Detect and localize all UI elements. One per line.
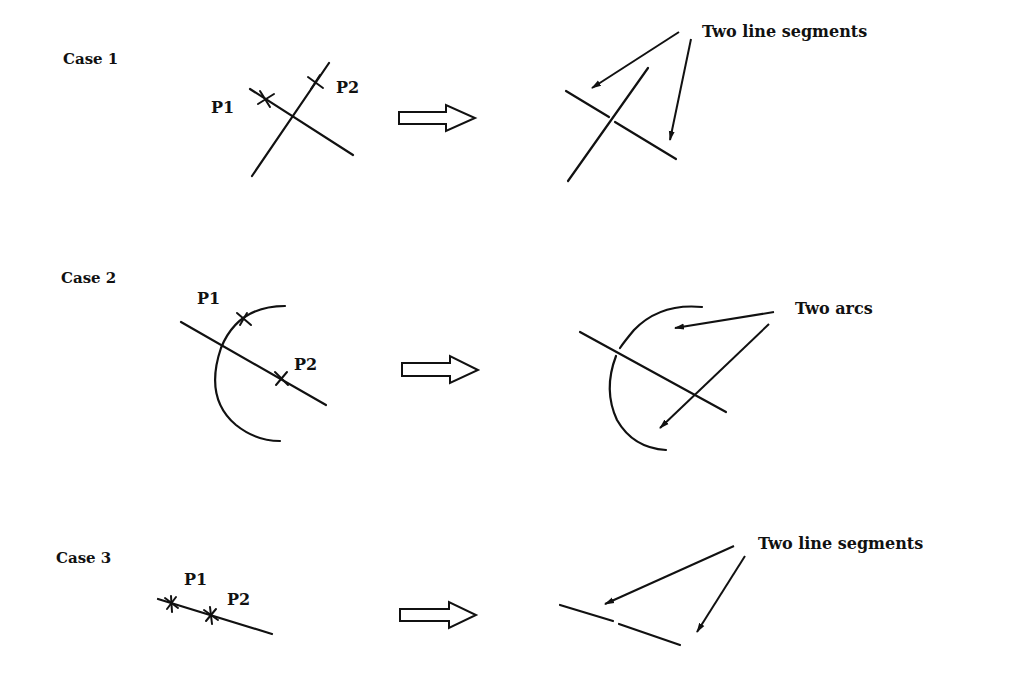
case-1-after: Two line segments bbox=[566, 22, 867, 181]
point-label-p2: P2 bbox=[294, 355, 317, 374]
annotation-two-line-segments: Two line segments bbox=[702, 22, 867, 41]
pick-mark-p1 bbox=[258, 91, 274, 107]
transform-arrow-icon bbox=[402, 356, 478, 383]
case-2-after: Two arcs bbox=[580, 299, 873, 450]
leader-arrow-2 bbox=[670, 39, 691, 140]
segment-a2 bbox=[615, 122, 676, 159]
line bbox=[580, 332, 726, 412]
point-label-p1: P1 bbox=[184, 570, 207, 589]
point-label-p1: P1 bbox=[211, 98, 234, 117]
point-label-p2: P2 bbox=[227, 590, 250, 609]
annotation-two-line-segments: Two line segments bbox=[758, 534, 923, 553]
segment-b bbox=[568, 68, 648, 181]
case-1-label: Case 1 bbox=[63, 50, 118, 68]
case-3-before: P1 P2 bbox=[158, 570, 272, 634]
leader-arrow-2 bbox=[660, 324, 769, 428]
segment-1 bbox=[560, 605, 613, 621]
diagram-canvas: Case 1 P1 P2 Two line segments bbox=[0, 0, 1020, 684]
pick-mark-p2 bbox=[275, 372, 288, 385]
pick-mark-p2 bbox=[204, 607, 218, 624]
case-3: Case 3 P1 P2 Two line segments bbox=[56, 534, 923, 645]
leader-arrow-1 bbox=[675, 312, 774, 328]
case-1: Case 1 P1 P2 Two line segments bbox=[63, 22, 867, 181]
pick-mark-p2 bbox=[308, 75, 323, 89]
leader-arrow-2 bbox=[697, 556, 745, 632]
arc-2 bbox=[610, 356, 666, 450]
case-3-label: Case 3 bbox=[56, 549, 111, 567]
case-2-label: Case 2 bbox=[61, 269, 116, 287]
leader-arrow-1 bbox=[605, 546, 734, 604]
case-1-before: P1 P2 bbox=[211, 63, 359, 176]
annotation-two-arcs: Two arcs bbox=[795, 299, 873, 318]
segment-2 bbox=[619, 624, 680, 645]
case-2: Case 2 P1 P2 Two arcs bbox=[61, 269, 873, 450]
leader-arrow-1 bbox=[592, 32, 679, 88]
case-3-after: Two line segments bbox=[560, 534, 923, 645]
arc bbox=[215, 306, 285, 441]
transform-arrow-icon bbox=[400, 602, 476, 628]
segment-a1 bbox=[566, 91, 609, 117]
line bbox=[158, 599, 272, 634]
arc-1 bbox=[620, 306, 702, 348]
case-2-before: P1 P2 bbox=[181, 289, 326, 441]
transform-arrow-icon bbox=[399, 105, 475, 131]
point-label-p2: P2 bbox=[336, 78, 359, 97]
point-label-p1: P1 bbox=[197, 289, 220, 308]
